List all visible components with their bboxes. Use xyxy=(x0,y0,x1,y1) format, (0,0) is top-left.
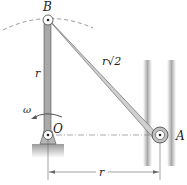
label-link-length: r√2 xyxy=(102,56,121,67)
dim-arrow-left-icon xyxy=(49,170,55,173)
label-omega: ω xyxy=(23,105,31,115)
label-crank-length: r xyxy=(35,68,40,79)
guide-right xyxy=(167,60,176,166)
crank-ob xyxy=(44,20,51,135)
guide-left xyxy=(143,60,152,166)
label-o: O xyxy=(53,123,63,135)
label-dimension-r: r xyxy=(99,167,104,178)
label-b: B xyxy=(43,1,52,13)
dim-arrow-right-icon xyxy=(153,170,159,173)
mechanism-diagram: B O A r r√2 r ω xyxy=(0,0,187,185)
label-a: A xyxy=(176,130,185,142)
